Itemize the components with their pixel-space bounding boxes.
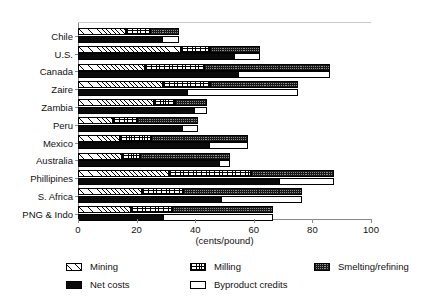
gross-cost-bar xyxy=(78,153,230,160)
plot-top-border xyxy=(78,22,371,23)
gross-cost-bar xyxy=(78,99,207,106)
smelting-refining-swatch-icon xyxy=(314,263,330,271)
category-label: PNG & Indo xyxy=(22,208,73,219)
bar-segment-milling xyxy=(113,117,136,124)
mining-swatch-icon xyxy=(66,263,82,271)
bar-segment-milling xyxy=(145,64,204,71)
gross-cost-bar xyxy=(78,188,302,195)
gross-cost-bar xyxy=(78,170,334,177)
category-row: Zambia xyxy=(78,98,371,116)
category-label: Canada xyxy=(40,66,73,77)
category-label: Phillipines xyxy=(30,173,73,184)
bar-segment-mining xyxy=(78,28,126,35)
category-row: Zaire xyxy=(78,80,371,98)
net-costs-swatch-icon xyxy=(66,281,82,289)
category-row: Mexico xyxy=(78,134,371,152)
byproduct-credits-swatch-icon xyxy=(190,281,206,289)
bar-segment-milling xyxy=(120,135,151,142)
bar-segment-net-costs xyxy=(78,89,188,96)
legend-item-mining: Mining xyxy=(66,261,118,272)
legend-label-mining: Mining xyxy=(90,261,118,272)
bar-segment-mining xyxy=(78,153,122,160)
bar-segment-mining xyxy=(78,170,169,177)
legend-label-milling: Milling xyxy=(214,261,241,272)
bar-segment-mining xyxy=(78,81,163,88)
x-axis-tick-label: 0 xyxy=(75,224,80,235)
x-axis-tick-label: 80 xyxy=(307,224,318,235)
category-row: Phillipines xyxy=(78,169,371,187)
bar-segment-smelting-refining xyxy=(140,153,231,160)
category-label: Mexico xyxy=(43,137,73,148)
x-axis-tick xyxy=(195,219,196,223)
bar-segment-mining xyxy=(78,46,181,53)
chart-legend: Mining Milling Smelting/refining Net cos… xyxy=(66,261,436,297)
category-label: Australia xyxy=(36,155,73,166)
x-axis-title: (cents/pound) xyxy=(78,235,371,246)
x-axis-tick xyxy=(137,219,138,223)
bar-segment-mining xyxy=(78,117,113,124)
gross-cost-bar xyxy=(78,64,330,71)
category-label: S. Africa xyxy=(38,191,73,202)
bar-segment-smelting-refining xyxy=(172,206,273,213)
category-row: Peru xyxy=(78,116,371,134)
x-axis-tick-label: 60 xyxy=(249,224,260,235)
x-axis-tick xyxy=(254,219,255,223)
x-axis-tick xyxy=(312,219,313,223)
gross-cost-bar xyxy=(78,206,273,213)
bar-segment-smelting-refining xyxy=(210,81,298,88)
gross-cost-bar xyxy=(78,46,260,53)
bar-segment-milling xyxy=(181,46,210,53)
bar-segment-mining xyxy=(78,206,131,213)
bar-segment-smelting-refining xyxy=(183,188,302,195)
gross-cost-bar xyxy=(78,135,248,142)
bar-segment-milling xyxy=(163,81,210,88)
bar-segment-milling xyxy=(131,206,172,213)
bar-segment-net-costs xyxy=(78,107,195,114)
bar-segment-mining xyxy=(78,135,120,142)
x-axis-tick-label: 100 xyxy=(363,224,379,235)
bar-segment-smelting-refining xyxy=(251,170,335,177)
bar-segment-mining xyxy=(78,188,142,195)
x-axis-tick xyxy=(78,219,79,223)
bar-segment-smelting-refining xyxy=(204,64,330,71)
x-axis-tick xyxy=(371,219,372,223)
chart-figure: ChileU.S.CanadaZaireZambiaPeruMexicoAust… xyxy=(0,0,441,303)
category-label: Peru xyxy=(53,119,73,130)
bar-segment-net-costs xyxy=(78,142,210,149)
bar-segment-milling xyxy=(122,153,140,160)
legend-item-milling: Milling xyxy=(190,261,241,272)
bar-segment-smelting-refining xyxy=(137,117,199,124)
category-label: Zambia xyxy=(41,102,73,113)
bar-segment-net-costs xyxy=(78,178,280,185)
bar-segment-net-costs xyxy=(78,125,183,132)
legend-label-smelting-refining: Smelting/refining xyxy=(338,261,409,272)
bar-segment-smelting-refining xyxy=(210,46,260,53)
category-row: Chile xyxy=(78,27,371,45)
legend-item-smelting-refining: Smelting/refining xyxy=(314,261,409,272)
legend-item-byproduct-credits: Byproduct credits xyxy=(190,279,287,290)
bar-segment-net-costs xyxy=(78,53,235,60)
legend-item-net-costs: Net costs xyxy=(66,279,130,290)
category-label: U.S. xyxy=(55,48,73,59)
gross-cost-bar xyxy=(78,28,179,35)
category-row: Australia xyxy=(78,152,371,170)
gross-cost-bar xyxy=(78,81,298,88)
x-axis-tick-label: 20 xyxy=(131,224,142,235)
category-row: U.S. xyxy=(78,45,371,63)
bar-segment-smelting-refining xyxy=(150,28,179,35)
x-axis-tick-label: 40 xyxy=(190,224,201,235)
bar-segment-milling xyxy=(169,170,251,177)
plot-area: ChileU.S.CanadaZaireZambiaPeruMexicoAust… xyxy=(78,22,371,218)
category-row: S. Africa xyxy=(78,187,371,205)
category-label: Chile xyxy=(51,30,73,41)
milling-swatch-icon xyxy=(190,263,206,271)
legend-label-net-costs: Net costs xyxy=(90,279,130,290)
gross-cost-bar xyxy=(78,117,198,124)
bar-segment-net-costs xyxy=(78,36,163,43)
bar-segment-smelting-refining xyxy=(151,135,248,142)
category-label: Zaire xyxy=(51,84,73,95)
bar-segment-net-costs xyxy=(78,71,239,78)
bar-segment-net-costs xyxy=(78,196,222,203)
bar-segment-milling xyxy=(154,99,175,106)
bar-segment-smelting-refining xyxy=(175,99,207,106)
